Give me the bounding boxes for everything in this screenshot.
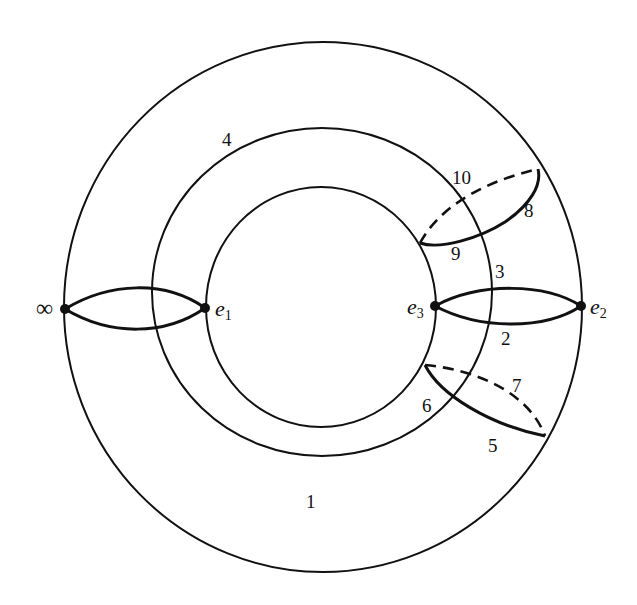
inner-circle [206,187,436,427]
point-e1 [200,303,210,313]
label-e2: e2 [590,294,607,321]
label-3: 3 [495,261,505,282]
cycle-7-dashed [425,365,545,436]
cut-e3-e2-upper [435,288,581,306]
label-8: 8 [524,200,534,221]
label-4: 4 [222,129,232,150]
middle-circle [152,128,492,456]
label-e1: e1 [215,296,232,323]
outer-circle [64,42,582,572]
label-infinity: ∞ [36,295,53,321]
cycle-10-dashed [420,169,538,243]
point-e3 [430,301,440,311]
label-10: 10 [452,167,471,188]
cut-infinity-e1-lower [65,308,205,329]
point-infinity [60,304,70,314]
cut-infinity-e1-upper [65,288,205,309]
label-1: 1 [306,491,316,512]
torus-diagram: ∞ e1 e3 e2 1 2 3 4 5 6 7 8 9 10 [0,0,637,605]
point-e2 [576,301,586,311]
label-5: 5 [488,435,498,456]
label-9: 9 [451,243,461,264]
label-6: 6 [422,395,432,416]
cycle-8-9-solid [420,169,539,245]
label-2: 2 [501,328,511,349]
cycle-5-6-solid [425,365,545,436]
cut-e3-e2-lower [435,306,581,324]
label-e3: e3 [407,294,424,321]
label-7: 7 [512,375,522,396]
